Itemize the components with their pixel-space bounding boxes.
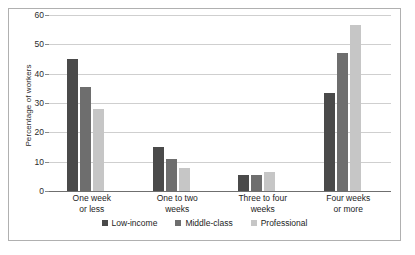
category-label-line: One week — [49, 193, 135, 204]
bar-group — [153, 15, 190, 191]
bar[interactable] — [264, 172, 275, 191]
legend-label: Low-income — [112, 218, 158, 228]
legend-swatch-icon — [251, 220, 257, 226]
y-axis-tick-label: 30 — [35, 98, 44, 108]
legend-swatch-icon — [102, 220, 108, 226]
category-label-line: Three to four — [220, 193, 306, 204]
bar[interactable] — [337, 53, 348, 191]
bar[interactable] — [153, 147, 164, 191]
plot-area: 0102030405060 — [49, 15, 391, 191]
x-axis-category-label: Four weeksor more — [306, 193, 392, 215]
bar[interactable] — [238, 175, 249, 191]
x-axis-category-label: One weekor less — [49, 193, 135, 215]
category-label-line: One to two — [135, 193, 221, 204]
bar[interactable] — [350, 25, 361, 191]
legend-item[interactable]: Professional — [251, 218, 308, 228]
category-label-line: or less — [49, 204, 135, 215]
legend-item[interactable]: Middle-class — [175, 218, 232, 228]
bar-group — [324, 15, 361, 191]
legend-label: Middle-class — [185, 218, 232, 228]
bar[interactable] — [179, 168, 190, 191]
category-label-line: weeks — [135, 204, 221, 215]
bar[interactable] — [166, 159, 177, 191]
bar[interactable] — [93, 109, 104, 191]
bar[interactable] — [80, 87, 91, 191]
y-axis-title: Percentage of workers — [24, 51, 33, 161]
legend-swatch-icon — [175, 220, 181, 226]
chart-legend: Low-incomeMiddle-classProfessional — [9, 218, 400, 228]
y-axis-tick-label: 0 — [39, 186, 44, 196]
bar-group — [67, 15, 104, 191]
legend-item[interactable]: Low-income — [102, 218, 158, 228]
bar-series-container — [49, 15, 391, 191]
y-axis-tick-label: 20 — [35, 127, 44, 137]
category-label-line: weeks — [220, 204, 306, 215]
category-label-line: or more — [306, 204, 392, 215]
y-axis-tick-label: 10 — [35, 157, 44, 167]
x-axis-category-label: Three to fourweeks — [220, 193, 306, 215]
axis-baseline — [49, 191, 391, 192]
y-axis-tick-label: 60 — [35, 10, 44, 20]
bar[interactable] — [251, 175, 262, 191]
x-axis-category-label: One to twoweeks — [135, 193, 221, 215]
y-axis-tick-label: 50 — [35, 39, 44, 49]
bar[interactable] — [67, 59, 78, 191]
bar-group — [238, 15, 275, 191]
y-axis-tick-label: 40 — [35, 69, 44, 79]
category-label-line: Four weeks — [306, 193, 392, 204]
bar[interactable] — [324, 93, 335, 191]
legend-label: Professional — [261, 218, 308, 228]
y-axis-tick-mark — [45, 191, 49, 192]
chart-figure: Percentage of workers 0102030405060 One … — [8, 8, 401, 241]
